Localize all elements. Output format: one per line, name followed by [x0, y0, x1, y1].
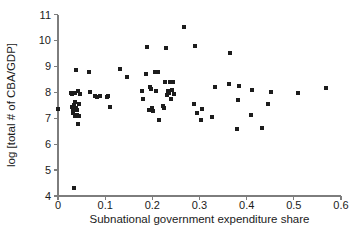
data-point [250, 88, 254, 92]
y-tick-label: 11 [40, 9, 51, 21]
data-point [77, 102, 81, 106]
y-tick-label: 6 [45, 138, 51, 150]
data-point [237, 84, 241, 88]
y-tick-label: 8 [45, 86, 51, 98]
data-point [149, 87, 153, 91]
data-point [141, 97, 145, 101]
data-point [156, 70, 160, 74]
data-point [118, 67, 122, 71]
data-point [236, 98, 240, 102]
data-point [213, 85, 217, 89]
data-point [164, 46, 168, 50]
data-point [108, 105, 112, 109]
data-point [56, 107, 60, 111]
data-point [163, 80, 167, 84]
data-point [157, 118, 161, 122]
data-point [266, 102, 270, 106]
data-point [74, 68, 78, 72]
data-point [195, 111, 199, 115]
data-point [169, 97, 173, 101]
x-tick-label: 0.4 [239, 199, 254, 211]
y-tick-label: 9 [45, 60, 51, 72]
x-axis-title: Subnational government expenditure share [90, 213, 310, 225]
data-point [162, 106, 166, 110]
data-point [125, 75, 129, 79]
data-point [88, 90, 92, 94]
data-point [151, 109, 155, 113]
y-tick-label: 5 [45, 164, 51, 176]
data-point [75, 108, 79, 112]
data-point [324, 86, 328, 90]
data-point [106, 94, 110, 98]
data-point [170, 88, 174, 92]
data-point [192, 102, 196, 106]
data-point [154, 89, 158, 93]
data-point [73, 100, 77, 104]
data-point [210, 115, 214, 119]
data-point [144, 72, 148, 76]
x-tick-label: 0.1 [98, 199, 113, 211]
x-tick-label: 0.2 [145, 199, 160, 211]
data-point [235, 127, 239, 131]
data-point [269, 90, 273, 94]
data-point [71, 111, 75, 115]
data-point [182, 25, 186, 29]
data-point [200, 107, 204, 111]
data-point [228, 51, 232, 55]
data-point [72, 186, 76, 190]
data-point [77, 114, 81, 118]
data-point [73, 91, 77, 95]
data-point [145, 45, 149, 49]
data-point [193, 44, 197, 48]
y-tick-label: 10 [39, 34, 51, 46]
data-point [227, 82, 231, 86]
x-tick-label: 0.3 [192, 199, 207, 211]
data-point [140, 89, 144, 93]
data-point [76, 122, 80, 126]
data-point [199, 118, 203, 122]
data-point [78, 92, 82, 96]
y-tick-label: 7 [45, 112, 51, 124]
y-tick-label-group: 4567891011 [39, 9, 51, 203]
data-point-group [56, 25, 328, 190]
x-tick-label: 0.6 [333, 199, 348, 211]
data-point [260, 126, 264, 130]
data-point [171, 80, 175, 84]
y-axis-title: log [total # of CBA/GDP] [5, 43, 17, 167]
data-point [249, 113, 253, 117]
x-tick-label: 0.5 [286, 199, 301, 211]
data-point [98, 94, 102, 98]
x-tick-label: 0 [55, 199, 61, 211]
data-point [296, 91, 300, 95]
data-point [172, 92, 176, 96]
x-tick-label-group: 00.10.20.30.40.50.6 [55, 199, 349, 211]
scatter-plot-canvas: 4567891011 00.10.20.30.40.50.6 Subnation… [0, 0, 359, 236]
data-point [87, 70, 91, 74]
y-tick-label: 4 [45, 190, 51, 202]
scatter-chart-figure: 4567891011 00.10.20.30.40.50.6 Subnation… [0, 0, 359, 236]
